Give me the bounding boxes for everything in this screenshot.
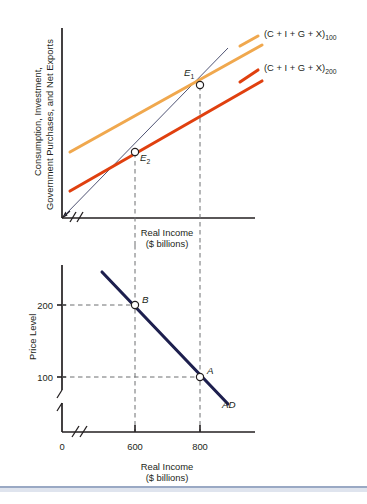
legend-swatch-200	[240, 70, 258, 82]
bottom-ylabel: Price Level	[27, 314, 38, 360]
footer-divider-bottom-line	[0, 488, 367, 492]
bottom-ytick-label-100: 100	[37, 372, 53, 383]
point-e1-marker	[196, 81, 203, 88]
legend-label-200: (C + I + G + X)200	[264, 62, 337, 75]
bottom-ytick-label-200: 200	[37, 300, 53, 311]
ad-curve	[102, 272, 228, 404]
point-a-marker	[196, 373, 203, 380]
bottom-xlabel-line-1: Real Income	[141, 461, 194, 472]
legend-label-100: (C + I + G + X)100	[264, 28, 337, 41]
footer-divider	[0, 486, 367, 492]
legend-swatch-100	[240, 36, 258, 46]
top-xlabel-line-2: ($ billions)	[146, 238, 189, 249]
top-xlabel-line-1: Real Income	[141, 227, 194, 238]
point-e2-marker	[131, 148, 138, 155]
ad-curve-label: AD	[221, 399, 236, 410]
top-ylabel-line-1: Consumption, Investment,	[32, 67, 43, 176]
point-e1-label: E1	[184, 67, 195, 80]
point-b-label: B	[142, 294, 149, 305]
economics-figure: Consumption, Investment, Government Purc…	[0, 0, 367, 504]
bottom-xtick-label-800: 800	[192, 441, 208, 452]
point-b-marker	[131, 301, 138, 308]
point-a-label: A	[206, 365, 214, 376]
top-x-axis-break	[70, 212, 83, 222]
bottom-xlabel-line-2: ($ billions)	[146, 472, 189, 483]
top-chart-group: Consumption, Investment, Government Purc…	[32, 28, 337, 249]
point-e2-label: E2	[140, 152, 151, 165]
bottom-xtick-label-0: 0	[59, 441, 64, 452]
bottom-xtick-label-600: 600	[127, 441, 143, 452]
top-ylabel-line-2: Government Purchases, and Net Exports	[44, 39, 55, 210]
forty-five-degree-line	[64, 48, 228, 216]
bottom-chart-group: Price Level 200 100	[27, 245, 255, 483]
